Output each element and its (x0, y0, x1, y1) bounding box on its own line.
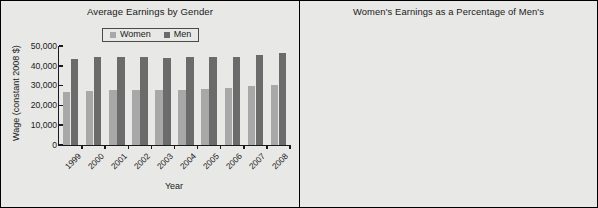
bar (256, 55, 264, 145)
chart-title-right: Women's Earnings as a Percentage of Men'… (300, 6, 597, 17)
legend-label-women: Women (120, 30, 151, 39)
legend-item-men: Men (164, 30, 192, 39)
x-tick-label: 1999 (62, 151, 82, 171)
y-tick-mark (59, 45, 63, 47)
y-tick-label: 0 (52, 141, 59, 150)
x-tick-mark (81, 145, 83, 149)
bar (178, 90, 186, 145)
x-axis-label-left: Year (58, 181, 290, 191)
x-tick-label: 2007 (247, 151, 267, 171)
x-tick-mark (197, 145, 199, 149)
x-tick-label: 2006 (224, 151, 244, 171)
bar (233, 57, 241, 145)
x-tick-mark (174, 145, 176, 149)
bar (279, 53, 287, 145)
y-tick-label: 20,000 (31, 101, 59, 110)
x-tick-label: 2001 (109, 151, 129, 171)
y-tick-label: 50,000 (31, 42, 59, 51)
x-tick-mark (128, 145, 130, 149)
legend-label-men: Men (174, 30, 192, 39)
chart-panel-earnings: Average Earnings by Gender Wage (constan… (1, 1, 299, 207)
chart-title-left: Average Earnings by Gender (1, 6, 299, 17)
bar (117, 57, 125, 145)
x-tick-label: 2005 (201, 151, 221, 171)
y-tick-label: 10,000 (31, 121, 59, 130)
x-tick-mark (243, 145, 245, 149)
bar (163, 58, 171, 145)
bar (225, 88, 233, 145)
bar (209, 57, 217, 146)
x-tick-label: 2002 (132, 151, 152, 171)
x-tick-mark (104, 145, 106, 149)
bar (271, 85, 279, 145)
legend-item-women: Women (110, 30, 151, 39)
bar (186, 57, 194, 145)
bar (155, 90, 163, 145)
y-tick-label: 30,000 (31, 81, 59, 90)
bar (86, 91, 94, 145)
bar (201, 89, 209, 145)
bar (71, 59, 79, 145)
bar (109, 90, 117, 145)
bar (140, 57, 148, 145)
x-tick-label: 2003 (155, 151, 175, 171)
plot-area-left: 010,00020,00030,00040,00050,000199920002… (58, 46, 290, 146)
bar (132, 90, 140, 145)
chart-panel-ratio: Women's Earnings as a Percentage of Men'… (299, 1, 597, 207)
y-tick-label: 40,000 (31, 62, 59, 71)
bar (248, 86, 256, 145)
y-axis-label-left: Wage (constant 2008 $) (11, 45, 21, 141)
x-tick-mark (266, 145, 268, 149)
figure-container: Average Earnings by Gender Wage (constan… (0, 0, 598, 208)
y-tick-mark (59, 65, 63, 67)
legend: Women Men (102, 28, 199, 42)
x-tick-label: 2008 (270, 151, 290, 171)
legend-swatch-men (164, 32, 170, 38)
y-tick-mark (59, 85, 63, 87)
bar (94, 57, 102, 145)
x-tick-label: 2004 (178, 151, 198, 171)
x-tick-mark (151, 145, 153, 149)
bar (63, 92, 71, 145)
x-tick-label: 2000 (85, 151, 105, 171)
legend-swatch-women (110, 32, 116, 38)
x-tick-mark (220, 145, 222, 149)
x-tick-mark (289, 145, 291, 149)
